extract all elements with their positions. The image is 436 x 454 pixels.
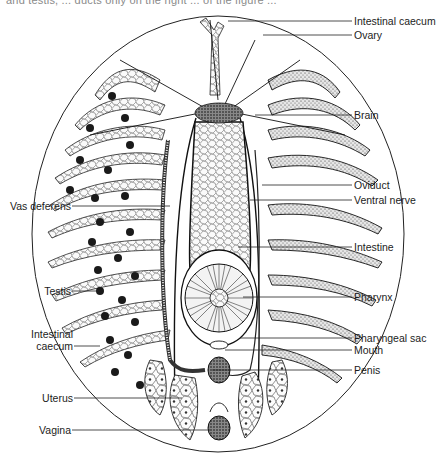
label-pharyngeal-sac: Pharyngeal sac: [354, 332, 426, 344]
intestine: [189, 122, 250, 270]
label-uterus: Uterus: [2, 392, 73, 404]
label-intestinal-caecum-left-line2: caecum: [2, 340, 73, 352]
label-vagina: Vagina: [2, 424, 71, 436]
label-intestine: Intestine: [354, 241, 394, 253]
label-brain: Brain: [354, 109, 379, 121]
label-intestinal-caecum-top: Intestinal caecum: [354, 15, 436, 27]
label-penis: Penis: [354, 364, 380, 376]
label-pharynx: Pharynx: [354, 291, 393, 303]
label-mouth: Mouth: [354, 344, 383, 356]
planarian-anatomy-diagram: [0, 0, 436, 454]
label-ovary: Ovary: [354, 29, 382, 41]
label-testis: Testis: [2, 285, 71, 297]
mouth: [210, 341, 228, 349]
brain: [195, 103, 243, 123]
vagina: [208, 416, 230, 440]
label-vas-deferens: Vas deferens: [2, 200, 71, 212]
label-oviduct: Oviduct: [354, 179, 390, 191]
label-ventral-nerve: Ventral nerve: [354, 194, 416, 206]
label-intestinal-caecum-left-line1: Intestinal: [2, 328, 73, 340]
pharynx: [185, 264, 253, 332]
